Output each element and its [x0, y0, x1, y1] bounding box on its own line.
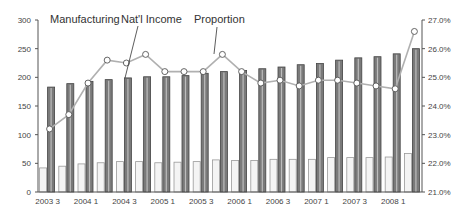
bar-manufacturing	[385, 157, 392, 192]
proportion-point	[354, 80, 360, 86]
x-axis-tick-label: 2004 3	[112, 197, 137, 206]
bar-manufacturing	[328, 158, 335, 192]
proportion-point	[162, 69, 168, 75]
left-axis-tick-label: 150	[18, 102, 32, 111]
x-axis-tick-label: 2006 3	[266, 197, 291, 206]
proportion-point	[258, 80, 264, 86]
right-axis-tick-label: 25.0%	[428, 73, 451, 82]
x-axis: 2003 32004 12004 32005 12005 32006 12006…	[35, 197, 406, 206]
proportion-point	[392, 86, 398, 92]
bar-manufacturing	[347, 158, 354, 192]
bar-manufacturing	[270, 159, 277, 192]
bar-manufacturing	[116, 162, 123, 192]
right-axis-tick-label: 24.0%	[428, 102, 451, 111]
bar-manufacturing	[155, 163, 162, 192]
x-axis-tick-label: 2007 1	[304, 197, 329, 206]
annotations: Manufacturing Nat'l Income Proportion	[50, 13, 245, 78]
bar-manufacturing	[366, 158, 373, 192]
right-axis-tick-label: 22.0%	[428, 159, 451, 168]
natl-income-pointer	[125, 26, 138, 78]
proportion-point	[315, 77, 321, 83]
right-axis-tick-label: 21.0%	[428, 188, 451, 197]
proportion-point	[296, 83, 302, 89]
bar-manufacturing	[97, 163, 104, 192]
x-axis-tick-label: 2003 3	[35, 197, 60, 206]
left-axis-tick-label: 250	[18, 45, 32, 54]
right-axis-tick-label: 27.0%	[428, 16, 451, 25]
left-axis-tick-label: 300	[18, 16, 32, 25]
proportion-point	[335, 77, 341, 83]
left-axis-tick-label: 100	[18, 131, 32, 140]
x-axis-tick-label: 2007 3	[343, 197, 368, 206]
bar-manufacturing	[289, 159, 296, 192]
annotation-manufacturing: Manufacturing	[50, 13, 120, 25]
left-axis-tick-label: 50	[22, 159, 31, 168]
right-axis-tick-label: 26.0%	[428, 45, 451, 54]
proportion-point	[181, 69, 187, 75]
bar-manufacturing	[212, 160, 219, 192]
x-axis-tick-label: 2008 1	[381, 197, 406, 206]
bar-manufacturing	[136, 162, 143, 192]
left-y-axis: 050100150200250300	[18, 16, 38, 197]
proportion-point	[47, 126, 53, 132]
x-axis-tick-label: 2005 1	[151, 197, 176, 206]
proportion-pointer	[214, 27, 217, 54]
bar-manufacturing	[59, 166, 66, 192]
combo-chart: 050100150200250300 21.0%22.0%23.0%24.0%2…	[0, 0, 454, 215]
bar-manufacturing	[251, 160, 258, 192]
proportion-point	[239, 69, 245, 75]
bar-series	[38, 49, 422, 192]
right-axis-tick-label: 23.0%	[428, 131, 451, 140]
x-axis-tick-label: 2004 1	[74, 197, 99, 206]
proportion-point	[200, 69, 206, 75]
bar-manufacturing	[78, 164, 85, 192]
proportion-point	[85, 80, 91, 86]
bar-manufacturing	[404, 154, 411, 192]
x-axis-tick-label: 2005 3	[189, 197, 214, 206]
annotation-proportion: Proportion	[194, 13, 245, 25]
annotation-natl-income: Nat'l Income	[121, 13, 182, 25]
x-axis-tick-label: 2006 1	[227, 197, 252, 206]
proportion-point	[66, 112, 72, 118]
right-y-axis: 21.0%22.0%23.0%24.0%25.0%26.0%27.0%	[422, 16, 451, 197]
proportion-point	[104, 57, 110, 63]
bar-manufacturing	[308, 159, 315, 192]
left-axis-tick-label: 200	[18, 73, 32, 82]
bar-manufacturing	[174, 162, 181, 192]
proportion-point	[411, 28, 417, 34]
bar-manufacturing	[193, 162, 200, 192]
bar-manufacturing	[40, 168, 47, 192]
proportion-point	[277, 77, 283, 83]
bar-manufacturing	[232, 160, 239, 192]
proportion-point	[143, 51, 149, 57]
proportion-point	[219, 51, 225, 57]
left-axis-tick-label: 0	[27, 188, 32, 197]
proportion-point	[373, 83, 379, 89]
